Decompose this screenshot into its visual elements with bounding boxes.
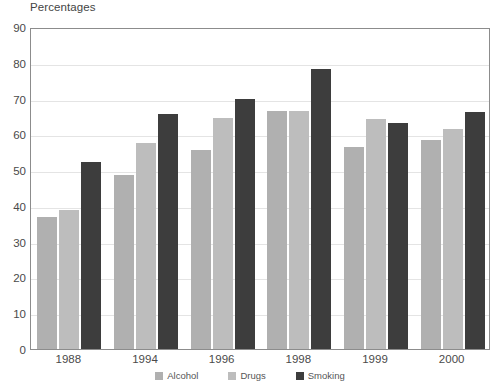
legend-item-drugs[interactable]: Drugs: [228, 370, 265, 381]
bar-smoking-1994[interactable]: [158, 114, 178, 349]
x-axis: 198819941996199819992000: [30, 353, 490, 369]
bar-group-1994: [114, 29, 178, 349]
x-tick-label-1988: 1988: [56, 353, 82, 365]
legend-item-alcohol[interactable]: Alcohol: [155, 370, 198, 381]
bar-group-1999: [344, 29, 408, 349]
y-tick-label-80: 80: [0, 58, 26, 70]
y-tick-label-30: 30: [0, 237, 26, 249]
bar-chart: Percentages 9080706050403020100 19881994…: [0, 0, 500, 388]
chart-legend: AlcoholDrugsSmoking: [0, 370, 500, 381]
y-tick-label-20: 20: [0, 272, 26, 284]
bar-alcohol-1988[interactable]: [37, 217, 57, 349]
bar-group-1988: [37, 29, 101, 349]
bar-drugs-1996[interactable]: [213, 118, 233, 349]
legend-item-smoking[interactable]: Smoking: [296, 370, 345, 381]
legend-label-smoking: Smoking: [308, 370, 345, 381]
legend-swatch-icon-alcohol: [155, 372, 163, 380]
bar-group-1998: [267, 29, 331, 349]
bar-alcohol-1994[interactable]: [114, 175, 134, 349]
bars-layer: [31, 29, 489, 349]
legend-swatch-icon-drugs: [228, 372, 236, 380]
bar-alcohol-1996[interactable]: [191, 150, 211, 349]
y-tick-label-40: 40: [0, 201, 26, 213]
legend-label-drugs: Drugs: [240, 370, 265, 381]
y-tick-label-60: 60: [0, 129, 26, 141]
bar-smoking-2000[interactable]: [465, 112, 485, 349]
y-axis: 9080706050403020100: [0, 28, 26, 350]
bar-alcohol-1998[interactable]: [267, 111, 287, 349]
plot-area: [30, 28, 490, 350]
y-tick-label-70: 70: [0, 94, 26, 106]
bar-smoking-1998[interactable]: [311, 69, 331, 349]
x-tick-label-1996: 1996: [209, 353, 235, 365]
chart-title: Percentages: [30, 1, 96, 13]
y-tick-label-50: 50: [0, 165, 26, 177]
y-tick-label-10: 10: [0, 308, 26, 320]
x-tick-label-1994: 1994: [132, 353, 158, 365]
bar-drugs-1988[interactable]: [59, 210, 79, 349]
bar-drugs-1994[interactable]: [136, 143, 156, 349]
bar-group-1996: [191, 29, 255, 349]
bar-drugs-1998[interactable]: [289, 111, 309, 349]
bar-smoking-1988[interactable]: [81, 162, 101, 349]
bar-alcohol-2000[interactable]: [421, 140, 441, 349]
x-tick-label-1999: 1999: [362, 353, 388, 365]
y-tick-label-90: 90: [0, 22, 26, 34]
bar-drugs-1999[interactable]: [366, 119, 386, 349]
bar-alcohol-1999[interactable]: [344, 147, 364, 349]
y-tick-label-0: 0: [0, 344, 26, 356]
legend-swatch-icon-smoking: [296, 372, 304, 380]
bar-smoking-1996[interactable]: [235, 99, 255, 349]
bar-smoking-1999[interactable]: [388, 123, 408, 349]
bar-group-2000: [421, 29, 485, 349]
x-tick-label-2000: 2000: [439, 353, 465, 365]
bar-drugs-2000[interactable]: [443, 129, 463, 349]
x-tick-label-1998: 1998: [286, 353, 312, 365]
legend-label-alcohol: Alcohol: [167, 370, 198, 381]
